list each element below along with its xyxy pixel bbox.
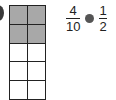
left-numerator: 4 bbox=[70, 4, 77, 17]
right-numerator: 1 bbox=[99, 4, 106, 17]
grid-cell bbox=[28, 44, 46, 63]
fraction-comparison: 4 10 1 2 bbox=[66, 4, 107, 33]
left-denominator: 10 bbox=[66, 20, 80, 33]
right-denominator: 2 bbox=[99, 20, 106, 33]
grid-cell bbox=[10, 81, 28, 100]
comparison-circle-icon bbox=[85, 14, 94, 23]
grid-cell-shaded bbox=[28, 25, 46, 44]
grid-cell-shaded bbox=[28, 6, 46, 25]
left-fraction: 4 10 bbox=[66, 4, 80, 33]
grid-cell-shaded bbox=[10, 6, 28, 25]
grid-cell bbox=[28, 81, 46, 100]
problem-marker-icon bbox=[0, 5, 4, 21]
grid-cell bbox=[10, 44, 28, 63]
grid-cell bbox=[10, 62, 28, 81]
grid-cell bbox=[28, 62, 46, 81]
grid-cell-shaded bbox=[10, 25, 28, 44]
fraction-grid-model bbox=[9, 5, 46, 100]
right-fraction: 1 2 bbox=[99, 4, 106, 33]
